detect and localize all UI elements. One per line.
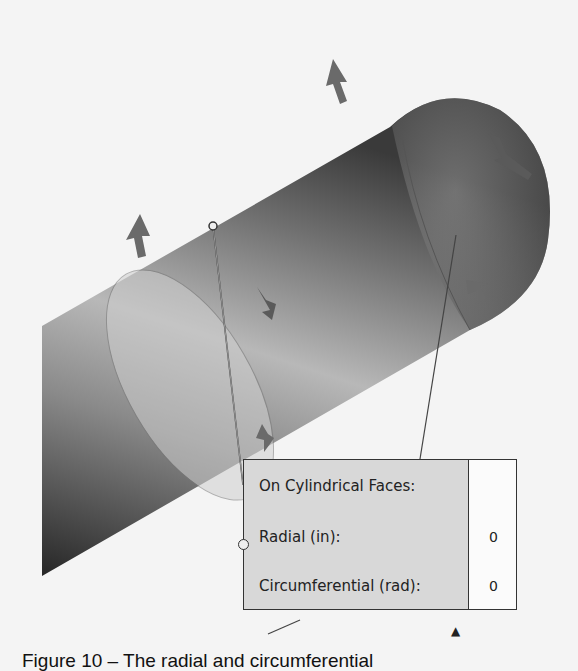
circumferential-label: Circumferential (rad): (259, 577, 421, 595)
figure-caption: Figure 10 – The radial and circumferenti… (22, 650, 373, 671)
popup-anchor-handle[interactable] (238, 539, 249, 550)
radial-value[interactable]: 0 (489, 529, 498, 545)
cylindrical-faces-popup: On Cylindrical Faces: Radial (in): 0 Cir… (243, 459, 517, 610)
popup-heading: On Cylindrical Faces: (259, 477, 415, 495)
caret-up-icon: ▲ (451, 624, 460, 638)
circumferential-value[interactable]: 0 (489, 578, 498, 594)
radial-label: Radial (in): (259, 528, 341, 546)
leader-handle (209, 222, 217, 230)
